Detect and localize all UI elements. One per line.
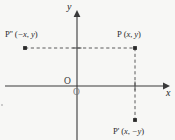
coordinate-plane-canvas: [0, 0, 175, 140]
point-marker-P: [133, 46, 137, 50]
point-label-P2-x: −x: [17, 29, 26, 39]
edge-artifact-speck: [1, 104, 3, 106]
point-label-P2-name: P'': [5, 29, 13, 39]
origin-label-duplicate: O: [73, 88, 80, 98]
point-label-P1: P' (x, −y): [113, 127, 144, 136]
x-axis: [5, 83, 170, 90]
y-axis-arrowhead: [74, 10, 81, 17]
point-label-P: P (x, y): [117, 30, 141, 39]
x-axis-label: x: [166, 88, 170, 98]
point-marker-P1: [133, 118, 137, 122]
point-label-P2-paren-close: ): [35, 29, 38, 39]
point-label-P1-paren-close: ): [141, 126, 144, 136]
point-label-P2: P'' (−x, y): [5, 30, 37, 39]
origin-label: O: [64, 77, 71, 87]
point-label-P-paren-close: ): [138, 29, 141, 39]
point-marker-P2: [23, 46, 27, 50]
coordinate-plane-figure: y x O O P'' (−x, y) P (x, y) P' (x, −y): [0, 0, 175, 140]
point-label-P1-y: −y: [132, 126, 141, 136]
y-axis: [74, 10, 81, 140]
y-axis-label: y: [67, 2, 71, 12]
